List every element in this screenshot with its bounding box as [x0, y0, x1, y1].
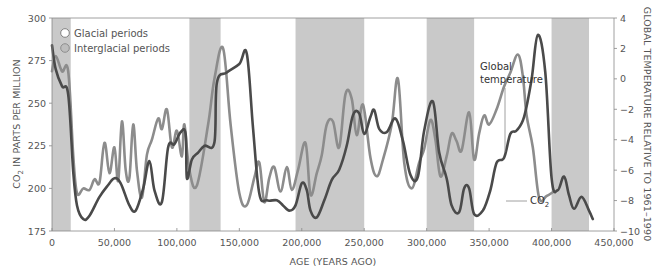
x-tick-label: 400,000: [532, 237, 571, 248]
right-tick-label: −4: [620, 134, 634, 145]
temperature-callout-line2: temperature: [480, 74, 543, 85]
left-axis-title: CO2 IN PARTS PER MILLION: [11, 59, 25, 189]
x-tick-label: 250,000: [345, 237, 384, 248]
left-tick-label: 300: [28, 13, 46, 24]
legend-glacial-label: Glacial periods: [74, 28, 148, 39]
left-tick-label: 225: [28, 140, 46, 151]
x-tick-label: 350,000: [469, 237, 508, 248]
x-tick-label: 50,000: [98, 237, 131, 248]
co2-temperature-chart: Glacial periods Interglacial periods 050…: [0, 0, 663, 275]
x-tick-label: 150,000: [220, 237, 259, 248]
right-tick-label: 2: [620, 43, 626, 54]
x-axis-title: AGE (YEARS AGO): [290, 256, 377, 267]
left-tick-label: 275: [28, 55, 46, 66]
right-tick-label: 0: [620, 73, 626, 84]
interglacial-swatch-icon: [61, 44, 70, 53]
legend: Glacial periods Interglacial periods: [61, 28, 170, 54]
right-axis-title: GLOBAL TEMPERATURE RELATIVE TO 1961–1990: [642, 7, 653, 242]
x-tick-label: 100,000: [157, 237, 196, 248]
right-tick-label: −2: [620, 104, 634, 115]
right-tick-label: −10: [620, 226, 640, 237]
glacial-swatch-icon: [61, 29, 70, 38]
x-tick-label: 200,000: [282, 237, 321, 248]
right-tick-label: 4: [620, 13, 626, 24]
right-tick-label: −8: [620, 195, 634, 206]
left-tick-label: 200: [28, 183, 46, 194]
x-tick-label: 300,000: [407, 237, 446, 248]
left-tick-label: 250: [28, 98, 46, 109]
legend-interglacial-label: Interglacial periods: [74, 43, 170, 54]
temperature-callout-line1: Global: [480, 61, 512, 72]
temperature-callout: Global temperature: [480, 61, 543, 152]
co2-callout: CO2: [506, 195, 549, 209]
right-axis-ticks: −10−8−6−4−2024: [614, 13, 640, 237]
left-axis-ticks: 175200225250275300: [28, 13, 52, 237]
x-tick-label: 450,000: [594, 237, 633, 248]
x-tick-label: 0: [49, 237, 55, 248]
left-tick-label: 175: [28, 226, 46, 237]
right-tick-label: −6: [620, 165, 634, 176]
